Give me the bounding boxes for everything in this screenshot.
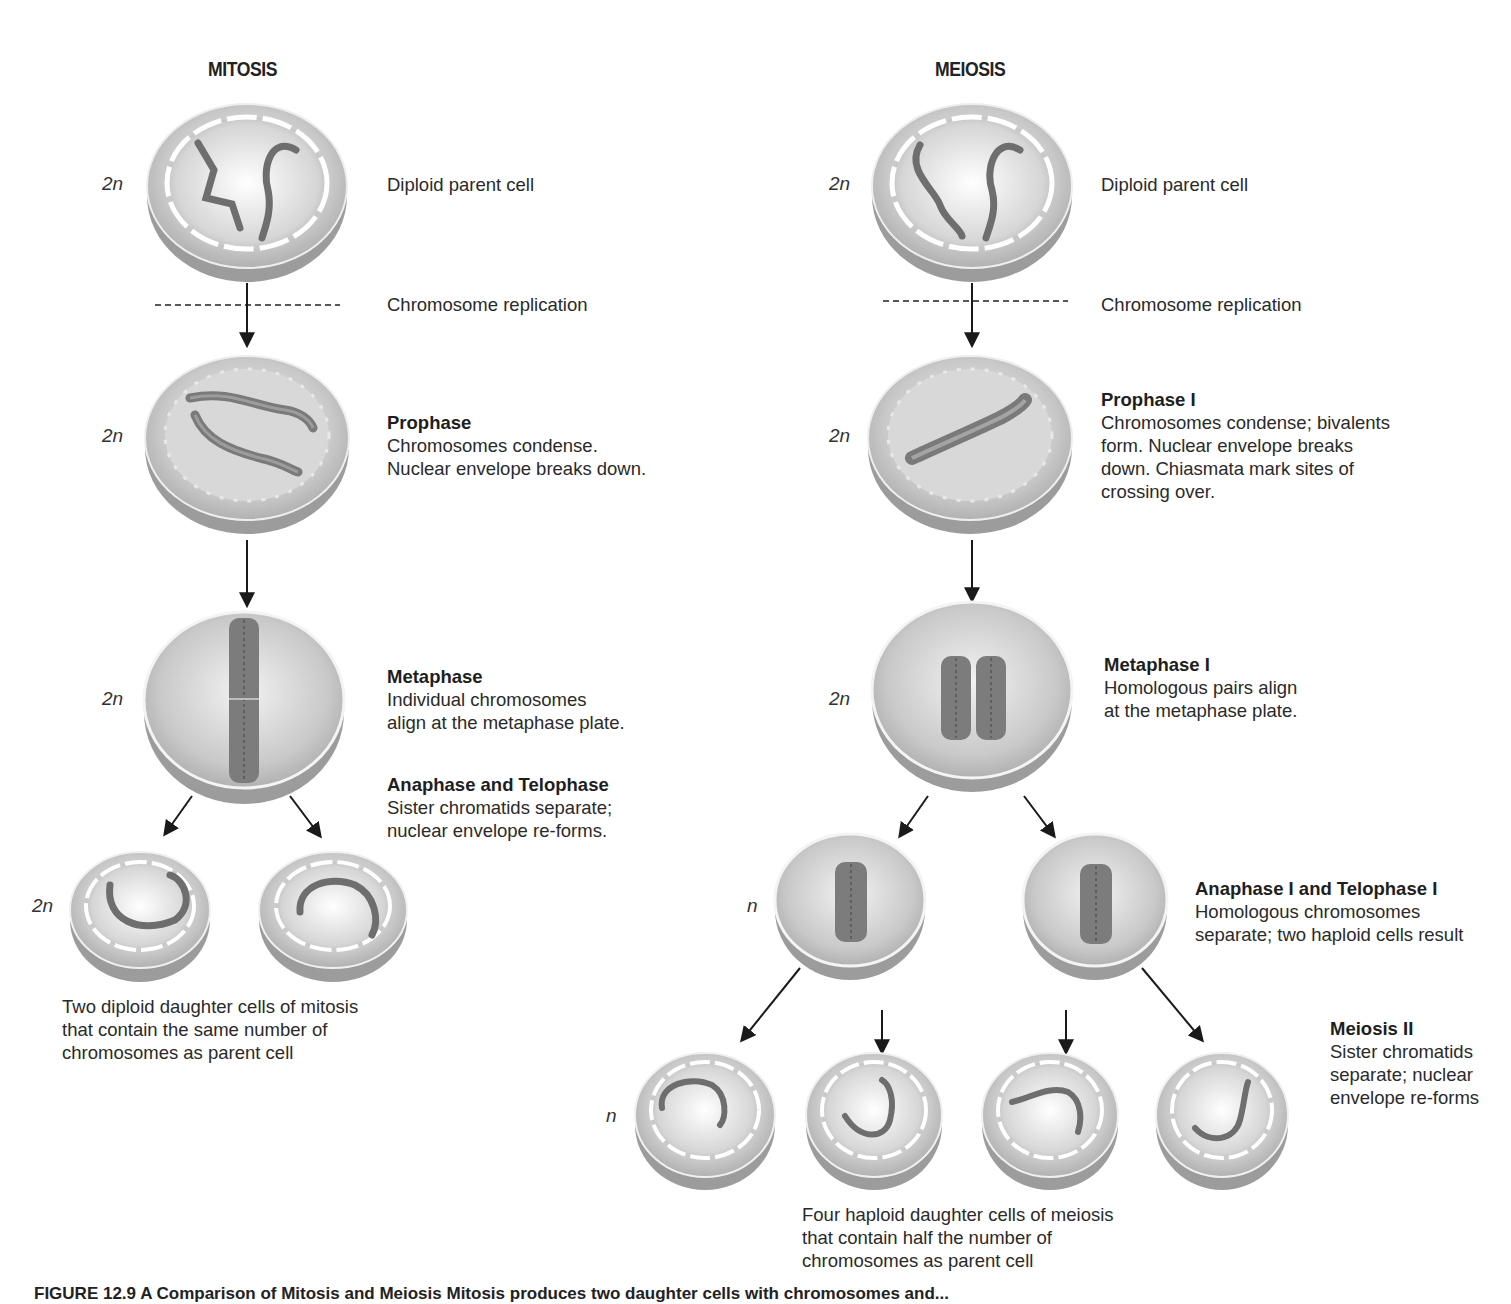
meiosis-ii-ploidy: n bbox=[606, 1105, 617, 1127]
mitosis-replication-label: Chromosome replication bbox=[387, 293, 588, 316]
mitosis-metaphase-ploidy: 2n bbox=[102, 688, 123, 710]
meiosis-ii-daughter-cell-4 bbox=[1156, 1053, 1288, 1190]
meiosis-parent-ploidy: 2n bbox=[829, 173, 850, 195]
meiosis-ii-daughter-cell-2 bbox=[806, 1053, 942, 1190]
mitosis-parent-cell bbox=[147, 104, 347, 282]
mitosis-prophase-cell bbox=[145, 356, 349, 534]
meiosis-result-caption: Four haploid daughter cells of meiosis t… bbox=[802, 1203, 1114, 1272]
meiosis-i-daughter-cell-1 bbox=[775, 834, 925, 980]
meiosis-parent-cell bbox=[872, 104, 1072, 282]
meiosis-prophase-ploidy: 2n bbox=[829, 425, 850, 447]
meiosis-metaphase-i-label: Metaphase I Homologous pairs align at th… bbox=[1104, 653, 1297, 722]
meiosis-metaphase-cell bbox=[872, 602, 1072, 792]
mitosis-metaphase-cell bbox=[144, 612, 344, 804]
meiosis-replication-label: Chromosome replication bbox=[1101, 293, 1302, 316]
mitosis-metaphase-label: Metaphase Individual chromosomes align a… bbox=[387, 665, 625, 734]
meiosis-ii-daughter-cell-1 bbox=[635, 1053, 775, 1190]
meiosis-i-daughter-cell-2 bbox=[1023, 834, 1167, 980]
meiosis-anaphase-telophase-i-label: Anaphase I and Telophase I Homologous ch… bbox=[1195, 877, 1463, 946]
mitosis-daughter-ploidy: 2n bbox=[32, 895, 53, 917]
meiosis-parent-label: Diploid parent cell bbox=[1101, 173, 1248, 196]
meiosis-ii-label: Meiosis II Sister chromatids separate; n… bbox=[1330, 1017, 1479, 1109]
meiosis-metaphase-ploidy: 2n bbox=[829, 688, 850, 710]
mitosis-anaphase-telophase-label: Anaphase and Telophase Sister chromatids… bbox=[387, 773, 612, 842]
mitosis-result-caption: Two diploid daughter cells of mitosis th… bbox=[62, 995, 358, 1064]
figure-caption: FIGURE 12.9 A Comparison of Mitosis and … bbox=[34, 1284, 949, 1304]
mitosis-daughter-cell-1 bbox=[70, 852, 210, 982]
meiosis-prophase-i-label: Prophase I Chromosomes condense; bivalen… bbox=[1101, 388, 1390, 503]
meiosis-ii-daughter-cell-3 bbox=[982, 1053, 1118, 1190]
mitosis-prophase-ploidy: 2n bbox=[102, 425, 123, 447]
meiosis-i-ploidy: n bbox=[747, 895, 758, 917]
mitosis-prophase-label: Prophase Chromosomes condense. Nuclear e… bbox=[387, 411, 646, 480]
meiosis-prophase-cell bbox=[868, 356, 1072, 534]
mitosis-daughter-cell-2 bbox=[259, 852, 407, 982]
mitosis-parent-label: Diploid parent cell bbox=[387, 173, 534, 196]
mitosis-parent-ploidy: 2n bbox=[102, 173, 123, 195]
